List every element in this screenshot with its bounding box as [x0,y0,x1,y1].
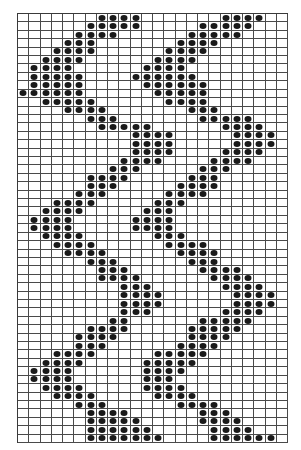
filled-stitch-dot [97,409,108,417]
empty-stitch-cell [131,182,142,190]
empty-stitch-cell [164,39,175,47]
empty-stitch-cell [243,393,254,401]
filled-stitch-dot [29,376,40,384]
empty-stitch-cell [131,317,142,325]
filled-stitch-dot [153,157,164,165]
filled-stitch-dot [153,132,164,140]
empty-stitch-cell [221,98,232,106]
empty-stitch-cell [131,334,142,342]
filled-stitch-dot [74,73,85,81]
empty-stitch-cell [198,140,209,148]
empty-stitch-cell [221,132,232,140]
empty-stitch-cell [97,199,108,207]
empty-stitch-cell [266,258,277,266]
empty-stitch-cell [74,283,85,291]
empty-stitch-cell [164,107,175,115]
empty-stitch-cell [277,107,288,115]
filled-stitch-dot [164,350,175,358]
empty-stitch-cell [221,81,232,89]
empty-stitch-cell [277,224,288,232]
empty-stitch-cell [164,334,175,342]
empty-stitch-cell [209,292,220,300]
empty-stitch-cell [176,115,187,123]
empty-stitch-cell [86,157,97,165]
empty-stitch-cell [187,409,198,417]
empty-stitch-cell [97,132,108,140]
empty-stitch-cell [108,308,119,316]
empty-stitch-cell [29,342,40,350]
empty-stitch-cell [277,90,288,98]
empty-stitch-cell [153,115,164,123]
empty-stitch-cell [277,191,288,199]
empty-stitch-cell [187,300,198,308]
empty-stitch-cell [18,418,29,426]
empty-stitch-cell [254,216,265,224]
empty-stitch-cell [18,300,29,308]
filled-stitch-dot [164,393,175,401]
empty-stitch-cell [97,39,108,47]
filled-stitch-dot [153,149,164,157]
empty-stitch-cell [254,418,265,426]
filled-stitch-dot [18,90,29,98]
empty-stitch-cell [142,39,153,47]
empty-stitch-cell [119,342,130,350]
filled-stitch-dot [153,73,164,81]
empty-stitch-cell [142,325,153,333]
empty-stitch-cell [176,292,187,300]
empty-stitch-cell [277,384,288,392]
empty-stitch-cell [119,115,130,123]
filled-stitch-dot [74,191,85,199]
empty-stitch-cell [153,334,164,342]
filled-stitch-dot [243,157,254,165]
empty-stitch-cell [41,275,52,283]
empty-stitch-cell [254,56,265,64]
empty-stitch-cell [29,182,40,190]
empty-stitch-cell [41,174,52,182]
empty-stitch-cell [74,132,85,140]
filled-stitch-dot [209,157,220,165]
empty-stitch-cell [86,367,97,375]
empty-stitch-cell [187,308,198,316]
empty-stitch-cell [41,165,52,173]
empty-stitch-cell [119,132,130,140]
empty-stitch-cell [232,334,243,342]
filled-stitch-dot [164,132,175,140]
empty-stitch-cell [232,409,243,417]
filled-stitch-dot [142,308,153,316]
filled-stitch-dot [41,384,52,392]
filled-stitch-dot [97,334,108,342]
empty-stitch-cell [232,384,243,392]
empty-stitch-cell [176,132,187,140]
empty-stitch-cell [209,359,220,367]
filled-stitch-dot [119,292,130,300]
filled-stitch-dot [108,266,119,274]
empty-stitch-cell [86,224,97,232]
filled-stitch-dot [74,241,85,249]
filled-stitch-dot [164,98,175,106]
empty-stitch-cell [254,22,265,30]
filled-stitch-dot [209,401,220,409]
empty-stitch-cell [164,418,175,426]
empty-stitch-cell [18,384,29,392]
empty-stitch-cell [18,81,29,89]
empty-stitch-cell [209,123,220,131]
empty-stitch-cell [52,157,63,165]
empty-stitch-cell [187,22,198,30]
filled-stitch-dot [254,140,265,148]
filled-stitch-dot [131,435,142,443]
empty-stitch-cell [142,317,153,325]
filled-stitch-dot [232,157,243,165]
empty-stitch-cell [243,342,254,350]
empty-stitch-cell [86,292,97,300]
empty-stitch-cell [266,325,277,333]
filled-stitch-dot [209,115,220,123]
filled-stitch-dot [108,165,119,173]
empty-stitch-cell [209,233,220,241]
empty-stitch-cell [63,283,74,291]
empty-stitch-cell [221,342,232,350]
empty-stitch-cell [52,409,63,417]
empty-stitch-cell [119,367,130,375]
filled-stitch-dot [187,48,198,56]
empty-stitch-cell [187,123,198,131]
filled-stitch-dot [74,98,85,106]
